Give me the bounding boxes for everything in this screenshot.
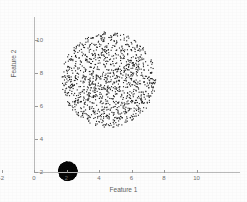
data-point [106, 116, 107, 117]
data-point [130, 101, 131, 102]
data-point [129, 108, 130, 109]
data-point [109, 118, 110, 119]
data-point [103, 103, 104, 104]
data-point [126, 65, 127, 66]
data-point [85, 71, 86, 72]
data-point [128, 110, 129, 111]
data-point [149, 79, 150, 80]
data-point [141, 94, 142, 95]
data-point [81, 61, 82, 62]
data-point [117, 76, 118, 77]
data-point [96, 49, 97, 50]
data-point [119, 77, 120, 78]
data-point [113, 73, 114, 74]
data-point [69, 59, 70, 60]
data-point [108, 52, 109, 53]
data-point [75, 175, 76, 176]
data-point [82, 114, 83, 115]
data-point [90, 59, 91, 60]
data-point [127, 118, 128, 119]
data-point [93, 108, 94, 109]
data-point [146, 76, 147, 77]
data-point [80, 94, 81, 95]
x-tick-label: -2 [0, 175, 4, 181]
data-point [69, 168, 70, 169]
data-point [99, 111, 100, 112]
data-point [110, 59, 111, 60]
data-point [124, 113, 125, 114]
data-point [154, 80, 155, 81]
data-point [79, 45, 80, 46]
data-point [73, 173, 74, 174]
data-point [107, 73, 108, 74]
data-point [98, 57, 99, 58]
data-point [83, 67, 84, 68]
data-point [133, 81, 134, 82]
data-point [127, 93, 128, 94]
data-point [104, 49, 105, 50]
x-tick-mark [132, 170, 133, 173]
data-point [147, 95, 148, 96]
data-point [135, 58, 136, 59]
data-point [66, 162, 67, 163]
data-point [152, 90, 153, 91]
data-point [123, 97, 124, 98]
data-point [113, 87, 114, 88]
data-point [64, 165, 65, 166]
x-tick-mark [197, 170, 198, 173]
data-point [82, 77, 83, 78]
data-point [106, 50, 107, 51]
data-point [98, 55, 99, 56]
data-point [124, 40, 125, 41]
data-point [116, 93, 117, 94]
data-point [136, 110, 137, 111]
data-point [144, 78, 145, 79]
data-point [147, 83, 148, 84]
data-point [78, 99, 79, 100]
data-point [131, 78, 132, 79]
data-point [137, 97, 138, 98]
data-point [85, 54, 86, 55]
data-point [117, 35, 118, 36]
data-point [102, 106, 103, 107]
data-point [125, 122, 126, 123]
data-point [75, 61, 76, 62]
data-point [107, 89, 108, 90]
data-point [140, 59, 141, 60]
data-point [122, 103, 123, 104]
data-point [107, 57, 108, 58]
data-point [81, 49, 82, 50]
data-point [135, 63, 136, 64]
data-point [89, 52, 90, 53]
data-point [99, 69, 100, 70]
data-point [133, 91, 134, 92]
data-point [113, 119, 114, 120]
data-point [108, 43, 109, 44]
data-point [87, 114, 88, 115]
data-point [67, 95, 68, 96]
data-point [80, 92, 81, 93]
data-point [89, 116, 90, 117]
data-point [65, 92, 66, 93]
data-point [111, 107, 112, 108]
data-point [107, 79, 108, 80]
data-point [131, 68, 132, 69]
data-point [105, 77, 106, 78]
data-point [65, 62, 66, 63]
data-point [71, 56, 72, 57]
data-point [109, 114, 110, 115]
data-point [115, 117, 116, 118]
data-point [100, 76, 101, 77]
y-tick-label: 6 [31, 103, 43, 109]
data-point [72, 73, 73, 74]
data-point [149, 102, 150, 103]
data-point [108, 92, 109, 93]
data-point [130, 72, 131, 73]
data-point [92, 81, 93, 82]
data-point [96, 94, 97, 95]
data-point [125, 107, 126, 108]
data-point [83, 89, 84, 90]
data-point [143, 78, 144, 79]
data-point [118, 68, 119, 69]
data-point [115, 94, 116, 95]
